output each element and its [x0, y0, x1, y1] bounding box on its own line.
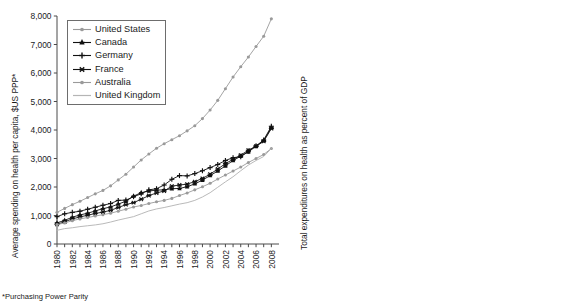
- legend-item-france[interactable]: France: [71, 63, 160, 76]
- y-axis-label-right: Total expenditures on health as percent …: [299, 76, 309, 250]
- y-tick-label: 5,000: [31, 97, 52, 107]
- legend-item-canada[interactable]: Canada: [71, 36, 160, 49]
- y-tick-label: 4,000: [31, 125, 52, 135]
- x-tick-label: 1990: [129, 250, 139, 269]
- legend-label: Australia: [93, 76, 131, 89]
- x-tick-label: 1998: [190, 250, 200, 269]
- y-tick-label: 1,000: [31, 211, 52, 221]
- legend-label: Germany: [93, 49, 133, 62]
- legend-spending: United StatesCanadaGermanyFranceAustrali…: [67, 20, 166, 105]
- x-tick-label: 1996: [175, 250, 185, 269]
- y-tick-label: 2,000: [31, 182, 52, 192]
- x-tick-label: 1986: [98, 250, 108, 269]
- y-tick-label: 0: [47, 239, 52, 249]
- x-tick-label: 1982: [68, 250, 78, 269]
- x-tick-label: 2000: [205, 250, 215, 269]
- x-tick-label: 1994: [159, 250, 169, 269]
- footnote-ppp: *Purchasing Power Parity: [2, 292, 88, 301]
- legend-marker-icon: [71, 63, 93, 76]
- x-tick-label: 1988: [113, 250, 123, 269]
- y-tick-label: 8,000: [31, 11, 52, 21]
- legend-item-united-states[interactable]: United States: [71, 23, 160, 36]
- x-tick-label: 1984: [83, 250, 93, 269]
- legend-label: France: [93, 63, 124, 76]
- legend-item-united-kingdom[interactable]: United Kingdom: [71, 89, 160, 102]
- figure-root: Average spending on health per capita, $…: [0, 0, 573, 303]
- y-tick-label: 3,000: [31, 154, 52, 164]
- legend-marker-icon: [71, 89, 93, 102]
- y-axis-label-left: Average spending on health per capita, $…: [10, 74, 20, 258]
- x-tick-label: 2004: [236, 250, 246, 269]
- x-tick-label: 1992: [144, 250, 154, 269]
- chart-panel-spending: Average spending on health per capita, $…: [0, 0, 286, 303]
- legend-marker-icon: [71, 36, 93, 49]
- legend-label: United States: [93, 23, 150, 36]
- legend-label: Canada: [93, 36, 127, 49]
- y-tick-label: 7,000: [31, 40, 52, 50]
- legend-marker-icon: [71, 23, 93, 36]
- legend-item-australia[interactable]: Australia: [71, 76, 160, 89]
- legend-label: United Kingdom: [93, 89, 160, 102]
- legend-marker-icon: [71, 76, 93, 89]
- y-tick-label: 6,000: [31, 68, 52, 78]
- chart-panel-gdp: Total expenditures on health as percent …: [287, 0, 573, 303]
- series-germany: [55, 124, 274, 219]
- legend-marker-icon: [71, 49, 93, 62]
- x-tick-label: 2008: [267, 250, 277, 269]
- legend-item-germany[interactable]: Germany: [71, 49, 160, 62]
- x-tick-label: 2006: [251, 250, 261, 269]
- x-tick-label: 2002: [221, 250, 231, 269]
- x-tick-label: 1980: [52, 250, 62, 269]
